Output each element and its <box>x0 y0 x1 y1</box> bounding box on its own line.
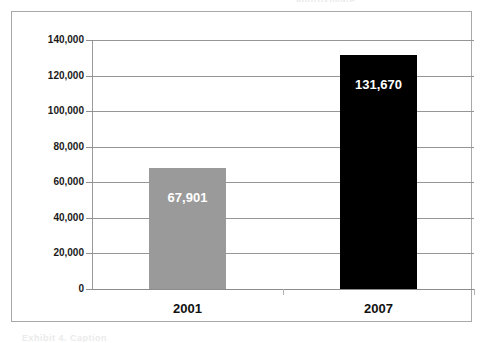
bar[interactable]: 67,901 <box>149 168 226 289</box>
category-axis-tick <box>474 289 475 295</box>
category-axis-tick <box>283 289 284 295</box>
value-axis-tick-label: 100,000 <box>22 106 84 116</box>
scan-artifact-top: approximate <box>296 0 355 2</box>
value-axis-tick-label: 0 <box>22 284 84 294</box>
bar-value-label: 67,901 <box>149 190 226 205</box>
scan-artifact-bottom: Exhibit 4. Caption <box>22 333 107 342</box>
category-axis-label: 2001 <box>92 301 283 316</box>
gridline <box>92 40 474 41</box>
value-axis-tick-labels: 020,00040,00060,00080,000100,000120,0001… <box>18 12 84 323</box>
value-axis-tick <box>86 111 93 112</box>
value-axis-tick <box>86 182 93 183</box>
value-axis-tick-label: 140,000 <box>22 35 84 45</box>
plot-area: 67,901131,670 <box>92 40 474 289</box>
value-axis-tick <box>86 289 93 290</box>
bar[interactable]: 131,670 <box>340 55 417 289</box>
category-axis-label: 2007 <box>283 301 474 316</box>
value-axis-tick <box>86 253 93 254</box>
value-axis-tick-label: 80,000 <box>22 142 84 152</box>
bar-value-label: 131,670 <box>340 77 417 92</box>
value-axis-tick <box>86 40 93 41</box>
value-axis-tick-label: 20,000 <box>22 248 84 258</box>
value-axis-tick-label: 120,000 <box>22 71 84 81</box>
value-axis-tick <box>86 147 93 148</box>
value-axis-tick <box>86 218 93 219</box>
value-axis-tick-label: 40,000 <box>22 213 84 223</box>
value-axis-tick <box>86 76 93 77</box>
value-axis-tick-label: 60,000 <box>22 177 84 187</box>
chart-figure-frame: 020,00040,00060,00080,000100,000120,0001… <box>11 11 472 322</box>
